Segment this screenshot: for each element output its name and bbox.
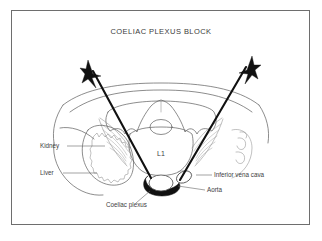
label-coeliac-plexus: Coeliac plexus	[106, 201, 147, 209]
diagram-title: COELIAC PLEXUS BLOCK	[110, 27, 211, 36]
aorta-vessel	[149, 175, 173, 191]
coeliac-plexus-block-diagram: COELIAC PLEXUS BLOCK L1	[0, 0, 322, 241]
paraspinal-muscle-right	[192, 118, 223, 166]
screenshot-canvas: COELIAC PLEXUS BLOCK L1	[0, 0, 322, 241]
leader-line-aorta	[178, 186, 205, 190]
liver-outline	[54, 143, 103, 195]
kidney-group	[82, 125, 133, 185]
liver-group	[54, 127, 103, 195]
needle-right-hub	[239, 56, 261, 84]
inferior-vena-cava-vessel	[174, 168, 193, 185]
label-inferior-vena-cava: Inferior vena cava	[214, 171, 265, 178]
great-vessels-group	[144, 168, 194, 196]
label-aorta: Aorta	[207, 186, 223, 193]
needle-left-hub	[80, 60, 101, 88]
bowel-loop-2	[236, 152, 245, 164]
label-kidney: Kidney	[40, 142, 60, 150]
label-liver: Liver	[40, 169, 54, 176]
vertebra-label: L1	[157, 150, 165, 157]
bowel-loop-1	[237, 138, 246, 150]
flank-contour-right	[259, 105, 269, 143]
needle-right-group	[180, 56, 261, 180]
needle-left-group	[80, 60, 151, 178]
flank-contour-left	[53, 105, 63, 143]
